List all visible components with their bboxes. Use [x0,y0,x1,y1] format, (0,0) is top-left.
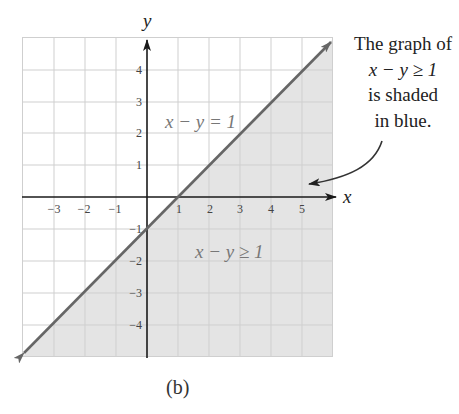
boundary-line-label: x − y = 1 [164,111,236,132]
y-tick-label: 3 [136,95,142,109]
x-tick-label: −1 [109,202,122,216]
y-tick-label: −3 [129,286,142,300]
y-tick-label: 4 [136,63,142,77]
annotation-line: x − y ≥ 1 [345,57,459,83]
x-tick-label: 5 [299,202,305,216]
annotation-line: is shaded [345,82,459,108]
y-tick-label: 2 [136,126,142,140]
x-axis-label: x [342,186,352,207]
annotation-line: in blue. [345,108,459,134]
x-tick-label: 1 [176,202,182,216]
y-tick-label: 1 [136,158,142,172]
inequality-graph-figure: −3 −2 −1 1 2 3 4 5 −4 −3 −2 −1 1 2 3 4 x… [0,0,459,414]
y-tick-label: −1 [129,222,142,236]
shaded-region-label: x − y ≥ 1 [194,241,264,262]
annotation-line: The graph of [345,31,459,57]
x-tick-label: 2 [207,202,213,216]
y-tick-label: −4 [129,318,142,332]
y-tick-label: −2 [129,254,142,268]
y-axis-label: y [141,10,152,31]
x-tick-label: 4 [268,202,274,216]
x-tick-label: 3 [237,202,243,216]
x-tick-label: −3 [48,202,61,216]
x-tick-label: −2 [78,202,91,216]
annotation-text: The graph of x − y ≥ 1 is shaded in blue… [345,31,459,133]
figure-caption: (b) [166,376,189,399]
